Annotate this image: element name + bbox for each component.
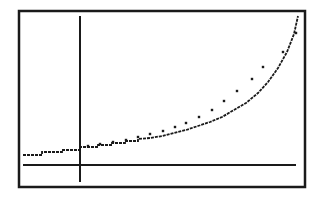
data-point: [112, 141, 114, 143]
data-point: [99, 143, 101, 145]
data-point: [137, 136, 139, 138]
data-point: [223, 100, 225, 102]
data-point: [282, 51, 284, 53]
data-point: [125, 139, 127, 141]
data-point: [262, 66, 264, 68]
data-point: [87, 145, 89, 147]
data-point: [211, 109, 213, 111]
data-point: [149, 133, 151, 135]
data-point: [174, 126, 176, 128]
data-point: [251, 78, 253, 80]
data-point: [295, 32, 297, 34]
regression-curve: [23, 16, 298, 155]
data-point: [162, 130, 164, 132]
graph-frame: [19, 11, 305, 187]
data-point: [198, 116, 200, 118]
data-point: [185, 122, 187, 124]
scatter-points: [87, 32, 297, 147]
data-point: [236, 90, 238, 92]
calculator-graph-screen: [0, 0, 334, 198]
